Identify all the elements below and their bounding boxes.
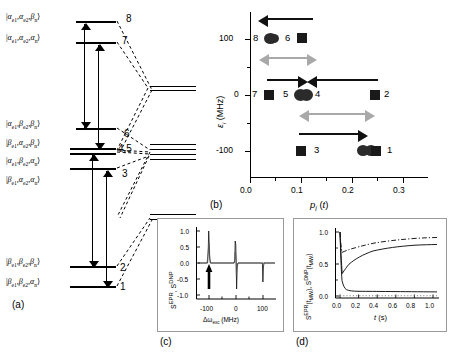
panel-c-y-label-neg0.5: -0.5 [177, 276, 188, 283]
panel-d-y-label-0.0: 0.0 [319, 293, 328, 300]
panel-d-x-label-0.2: 0.2 [351, 302, 360, 309]
level-number-45: 4,5 [118, 143, 132, 154]
data-label-8: 8 [253, 33, 258, 43]
panel-c-y-label-0.0: 0.0 [180, 260, 189, 267]
level-number-3: 3 [122, 168, 128, 179]
y-tick-label-100: 100 [219, 34, 233, 43]
data-point-8b [269, 34, 279, 43]
x-tick-minor-0.15 [326, 177, 327, 181]
data-label-4: 4 [315, 89, 320, 99]
panel-c-y-label-0.5: 0.5 [180, 244, 189, 251]
level-number-7: 7 [122, 35, 128, 46]
panel-d-x-label-0.0: 0.0 [332, 302, 341, 309]
x-tick-0.3 [403, 177, 404, 183]
x-axis-title: pi (t) [310, 199, 328, 212]
y-tick-label-0: 0 [234, 90, 239, 99]
data-label-6: 6 [285, 33, 290, 43]
panel-d-tag: (d) [296, 336, 308, 347]
x-tick-0.0 [250, 177, 251, 183]
panel-c-x-label-100: 100 [257, 305, 268, 312]
manifold-middle-line-3 [150, 154, 196, 155]
data-point-2 [370, 90, 380, 100]
manifold-middle-line-2 [150, 149, 196, 150]
panel-d-x-label-0.6: 0.6 [388, 302, 397, 309]
data-label-5: 5 [283, 89, 288, 99]
panel-c-x-axis-title: Δωexc (MHz) [203, 316, 239, 325]
level-number-1: 1 [120, 281, 126, 292]
annotation-arrow-grey-upper-right [268, 57, 308, 59]
data-label-2: 2 [384, 89, 389, 99]
y-tick-minor-50 [247, 67, 251, 68]
panel-d-x-axis-title: t (s) [374, 313, 387, 322]
x-tick-label-0.0: 0.0 [240, 186, 252, 195]
panel-d-y-label-1.0: 1.0 [319, 229, 328, 236]
manifold-middle-line-4 [150, 159, 196, 160]
annotation-arrow-grey-lower-right [308, 113, 366, 115]
panel-c-tag: (c) [160, 336, 172, 347]
x-tick-label-0.2: 0.2 [342, 186, 354, 195]
annotation-arrow-black-mid-left [316, 79, 378, 81]
data-label-3: 3 [314, 145, 319, 155]
panel-c-container: SEPR, SDNP 1.0 0.5 0.0 -0.5 -1.0 [157, 218, 284, 332]
panel-c-y-label-1.0: 1.0 [180, 228, 189, 235]
panel-b-tag: (b) [210, 199, 222, 210]
y-axis-title: εi (MHz) [215, 96, 227, 128]
manifold-middle-line-1 [150, 144, 196, 145]
level-number-8: 8 [126, 13, 132, 24]
manifold-upper-line-1 [150, 86, 196, 87]
y-tick-minor-neg50 [247, 123, 251, 124]
y-tick-neg100 [245, 151, 251, 152]
data-point-3 [296, 146, 306, 156]
level-number-2: 2 [120, 262, 126, 273]
x-tick-minor-0.05 [275, 177, 276, 181]
manifold-upper-line-2 [150, 90, 196, 91]
annotation-arrow-black-top [267, 18, 313, 20]
x-tick-0.1 [301, 177, 302, 183]
data-label-7: 7 [252, 89, 257, 99]
y-tick-100 [245, 39, 251, 40]
x-tick-label-0.3: 0.3 [393, 186, 405, 195]
panel-d-x-label-0.8: 0.8 [406, 302, 415, 309]
y-tick-label-neg100: -100 [216, 146, 233, 155]
manifold-lower-line-1 [150, 214, 196, 215]
x-axis-line [250, 177, 428, 178]
data-point-7 [264, 90, 274, 100]
panel-d-y-label-0.5: 0.5 [319, 261, 328, 268]
x-tick-label-0.1: 0.1 [291, 186, 303, 195]
panel-a-tag: (a) [12, 299, 24, 310]
panel-d-x-label-1.0: 1.0 [425, 302, 434, 309]
panel-c-plot [196, 227, 276, 303]
panel-d-container: SEPR(tMW), SDNP(tMW) 1.0 0.5 0.0 [293, 218, 447, 332]
panel-c-x-label-neg100: -100 [200, 305, 213, 312]
panel-c-x-label-0: 0 [234, 305, 238, 312]
x-tick-minor-0.25 [377, 177, 378, 181]
panel-c-y-axis-title: SEPR, SDNP [168, 271, 177, 309]
panel-d-plot [335, 228, 441, 310]
figure-root: |αe1,αe2,βn⟩ |αe1,αe2,αn⟩ |αe1,βe2,βn⟩ |… [0, 0, 453, 361]
panel-c-y-label-neg1.0: -1.0 [177, 292, 188, 299]
data-label-1: 1 [387, 145, 392, 155]
annotation-arrow-black-mid-right [267, 79, 299, 81]
annotation-arrow-black-bottom [299, 133, 359, 135]
data-point-4 [300, 89, 313, 101]
panel-d-x-label-0.4: 0.4 [369, 302, 378, 309]
panel-b-population-chart: 100 0 -100 0.0 0.1 0.2 0.3 εi (MHz) pi (… [205, 0, 453, 215]
y-tick-0 [245, 95, 251, 96]
panel-d-y-axis-title: SEPR(tMW), SDNP(tMW) [303, 254, 314, 320]
data-point-1 [371, 146, 381, 156]
data-point-6 [297, 33, 307, 43]
x-tick-0.2 [352, 177, 353, 183]
level-number-6: 6 [124, 128, 130, 139]
